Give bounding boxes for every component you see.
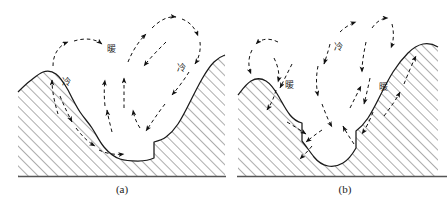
arrow-b-r4 <box>364 78 370 104</box>
label-cold-right-a: 冷 <box>177 62 186 73</box>
caption-panel-a: (a) <box>92 183 152 195</box>
arrow-a-c1 <box>104 80 105 106</box>
arrow-b-c1 <box>317 66 319 96</box>
arrow-b-c3 <box>340 22 356 32</box>
label-warm-left-b: 暖 <box>285 79 294 90</box>
arrow-a-r2 <box>152 17 176 28</box>
arrow-b-r9 <box>350 86 361 108</box>
arrow-b-l2 <box>249 50 252 74</box>
terrain-b <box>238 44 438 176</box>
arrow-a-r1 <box>128 34 146 62</box>
arrow-b-l1 <box>256 39 278 44</box>
arrow-a-r3 <box>182 19 198 36</box>
arrow-b-l3 <box>274 58 279 82</box>
arrow-b-c2 <box>324 44 330 64</box>
label-cold-left-a: 冷 <box>62 76 71 87</box>
arrow-b-c4 <box>322 104 332 127</box>
arrow-a-r5 <box>172 72 189 95</box>
arrow-a-r7 <box>144 42 166 66</box>
mountain-valley-circulation-figure: 冷 暖 冷 <box>0 0 447 205</box>
label-warm-center-a: 暖 <box>107 43 116 54</box>
arrow-b-r6 <box>343 126 354 144</box>
arrow-b-r3 <box>362 42 366 72</box>
arrow-a-r4 <box>195 42 200 64</box>
arrow-a-r8 <box>133 110 140 128</box>
arrow-a-c3 <box>107 110 112 132</box>
terrain-a <box>18 55 225 176</box>
label-cold-center-b: 冷 <box>334 41 343 52</box>
label-warm-right-b: 暖 <box>379 81 388 92</box>
panel-b: 暖 冷 暖 <box>237 18 447 177</box>
caption-panel-b: (b) <box>315 183 375 195</box>
arrow-a-l2 <box>53 42 68 66</box>
arrow-b-r2 <box>391 24 393 48</box>
arrow-b-r1 <box>372 18 388 28</box>
arrow-b-l6 <box>306 130 322 142</box>
panel-a: 冷 暖 冷 <box>18 17 226 177</box>
arrow-a-l3 <box>74 39 102 44</box>
arrow-a-r6 <box>146 104 165 131</box>
